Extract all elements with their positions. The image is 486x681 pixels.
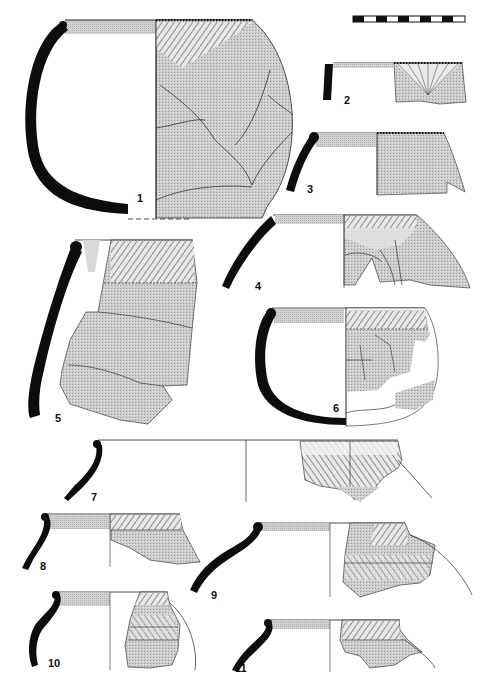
vessel-11-label: 11	[235, 662, 247, 674]
vessel-9: 9	[190, 522, 472, 601]
vessel-2: 2	[323, 63, 466, 106]
vessel-2-label: 2	[344, 94, 350, 106]
pottery-plate: 1 2 3 4	[0, 0, 486, 681]
vessel-6: 6	[255, 308, 438, 426]
plate-drawing: 1 2 3 4	[0, 0, 486, 681]
vessel-1-label: 1	[137, 192, 143, 204]
vessel-4: 4	[222, 215, 470, 292]
vessel-5: 5	[28, 240, 197, 424]
vessel-10-label: 10	[48, 657, 60, 669]
vessel-5-label: 5	[55, 412, 61, 424]
vessel-11: 11	[232, 619, 435, 674]
vessel-4-label: 4	[255, 280, 262, 292]
vessel-9-label: 9	[211, 589, 217, 601]
vessel-8: 8	[22, 513, 200, 572]
vessel-3: 3	[286, 132, 465, 195]
vessel-8-label: 8	[40, 560, 46, 572]
vessel-10: 10	[29, 591, 196, 670]
vessel-1: 1	[25, 20, 293, 219]
vessel-3-label: 3	[307, 183, 313, 195]
vessel-6-label: 6	[333, 402, 339, 414]
vessel-7: 7	[64, 440, 432, 503]
vessel-7-label: 7	[91, 491, 97, 503]
scale-bar	[353, 16, 465, 22]
